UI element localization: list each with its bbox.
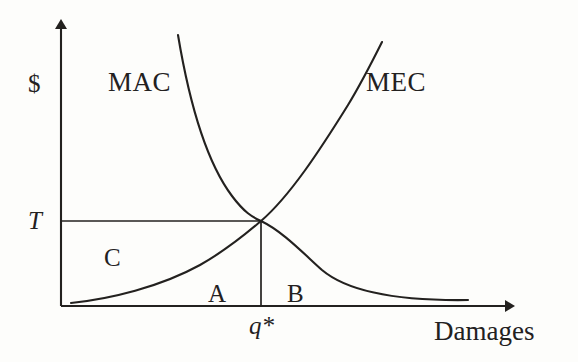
equilibrium-quantity-label-qstar: q* [249,313,274,338]
region-label-b: B [287,281,304,306]
y-axis-label-dollar: $ [28,71,41,96]
region-label-a: A [208,281,226,306]
mac-curve-label: MAC [108,69,171,96]
figure-canvas: $ T Damages MAC MEC C A B q* [0,0,578,362]
region-label-c: C [104,245,121,270]
tax-level-label-t: T [28,208,42,233]
mec-curve-label: MEC [366,69,426,96]
x-axis-label-damages: Damages [434,318,534,345]
diagram-svg [0,0,578,362]
